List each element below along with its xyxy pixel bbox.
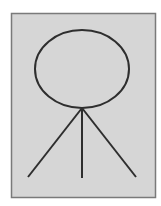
diagram-canvas bbox=[0, 0, 161, 206]
